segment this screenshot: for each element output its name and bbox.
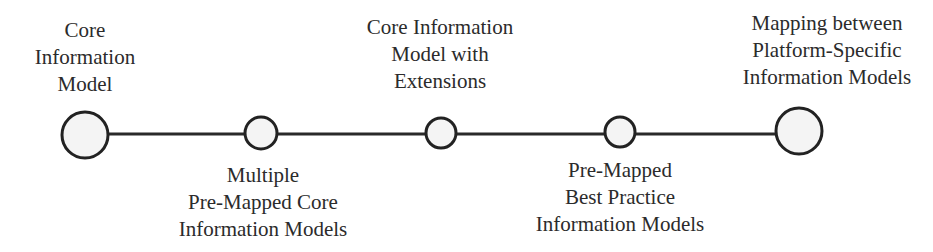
label-multiple-pre-mapped-core-information-models: Multiple Pre-Mapped Core Information Mod… bbox=[179, 162, 348, 243]
label-line: Model with bbox=[367, 41, 513, 68]
label-line: Core Information bbox=[367, 14, 513, 41]
label-line: Pre-Mapped bbox=[536, 157, 705, 184]
label-line: Model bbox=[35, 71, 135, 98]
node-multiple-pre-mapped-core-information-models bbox=[245, 117, 277, 149]
label-line: Platform-Specific bbox=[743, 37, 912, 64]
label-line: Mapping between bbox=[743, 10, 912, 37]
label-line: Information Models bbox=[179, 216, 348, 243]
node-pre-mapped-best-practice-information-models bbox=[605, 117, 635, 147]
label-mapping-between-platform-specific-information-models: Mapping between Platform-Specific Inform… bbox=[743, 10, 912, 91]
node-core-information-model bbox=[62, 112, 108, 158]
label-line: Extensions bbox=[367, 68, 513, 95]
node-mapping-between-platform-specific-information-models bbox=[776, 108, 822, 154]
label-line: Information Models bbox=[536, 211, 705, 238]
label-core-information-model: Core Information Model bbox=[35, 17, 135, 98]
label-line: Pre-Mapped Core bbox=[179, 189, 348, 216]
label-line: Multiple bbox=[179, 162, 348, 189]
label-line: Information bbox=[35, 44, 135, 71]
node-core-information-model-with-extensions bbox=[426, 118, 456, 148]
label-pre-mapped-best-practice-information-models: Pre-Mapped Best Practice Information Mod… bbox=[536, 157, 705, 238]
label-line: Information Models bbox=[743, 64, 912, 91]
label-core-information-model-with-extensions: Core Information Model with Extensions bbox=[367, 14, 513, 95]
label-line: Best Practice bbox=[536, 184, 705, 211]
label-line: Core bbox=[35, 17, 135, 44]
